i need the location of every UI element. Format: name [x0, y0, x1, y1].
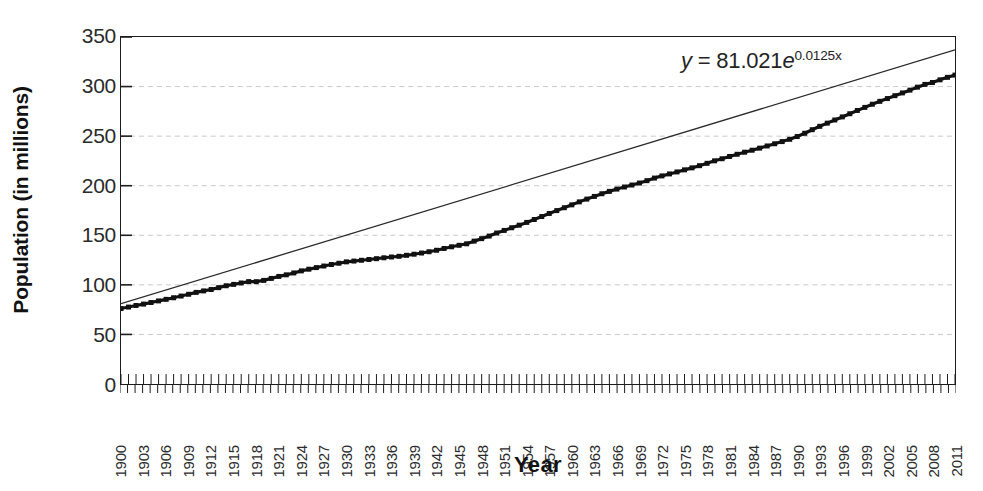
y-tick-label: 50: [48, 323, 116, 347]
plot-area: y = 81.021e0.0125x: [120, 36, 956, 385]
equation-lhs: y: [681, 48, 692, 73]
equation-base: e: [782, 48, 794, 73]
trendline-equation: y = 81.021e0.0125x: [681, 48, 842, 74]
y-tick-label: 150: [48, 223, 116, 247]
y-axis-title: Population (in millions): [0, 0, 42, 400]
equation-equals: =: [698, 48, 711, 73]
equation-exponent: 0.0125x: [794, 48, 841, 63]
x-axis-tick-labels: 1900190319061909191219151918192119241927…: [120, 389, 956, 449]
equation-coefficient: 81.021: [716, 48, 782, 73]
y-tick-label: 300: [48, 74, 116, 98]
y-tick-label: 250: [48, 124, 116, 148]
y-axis-tick-labels: 050100150200250300350: [44, 0, 116, 491]
y-tick-label: 200: [48, 174, 116, 198]
y-tick-label: 350: [48, 24, 116, 48]
chart-figure: Population (in millions) 050100150200250…: [0, 0, 983, 491]
y-tick-label: 0: [48, 373, 116, 397]
plot-inner: [121, 37, 955, 384]
x-axis-title: Year: [120, 452, 956, 478]
y-tick-label: 100: [48, 273, 116, 297]
data-series-layer: [121, 37, 955, 384]
y-axis-title-text: Population (in millions): [9, 86, 33, 313]
